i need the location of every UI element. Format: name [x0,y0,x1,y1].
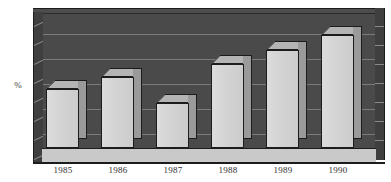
bar-chart: % [0,0,391,182]
axis-tick [34,41,43,46]
x-axis-label-3: 1988 [205,165,251,175]
bar-1987 [156,94,198,148]
bar-1985 [46,80,88,148]
x-axis-label-4: 1989 [260,165,306,175]
left-axis-wall [33,12,43,163]
bar-side-face [353,26,362,139]
bar-front-face [321,35,354,148]
x-axis-label-0: 1985 [40,165,86,175]
x-axis-label-2: 1987 [150,165,196,175]
bar-1989 [266,41,308,148]
axis-tick [34,98,43,103]
plot-floor-edge [33,162,385,164]
axis-tick [375,121,385,122]
axis-tick [34,79,43,84]
plot-floor [42,148,376,163]
bar-1990 [321,26,363,148]
bar-side-face [243,55,252,139]
x-axis-label-1: 1986 [95,165,141,175]
bar-1988 [211,55,253,148]
axis-tick [34,22,43,27]
bar-front-face [211,64,244,148]
axis-tick [375,45,385,46]
axis-tick [375,102,385,103]
bar-side-face [188,94,197,139]
bar-side-face [78,80,87,139]
axis-tick [375,64,385,65]
bar-front-face [101,77,134,148]
bar-1986 [101,68,143,148]
axis-tick [375,140,385,141]
bar-side-face [298,41,307,139]
bar-side-face [133,68,142,139]
axis-tick [34,136,43,141]
y-axis-label: % [8,80,28,90]
axis-tick [375,83,385,84]
plot-area [33,8,385,163]
bar-front-face [266,50,299,148]
right-axis-wall [375,8,385,160]
axis-tick [34,60,43,65]
bar-front-face [156,103,189,148]
bar-front-face [46,89,79,148]
axis-tick [34,117,43,122]
x-axis-label-5: 1990 [315,165,361,175]
axis-tick [375,26,385,27]
